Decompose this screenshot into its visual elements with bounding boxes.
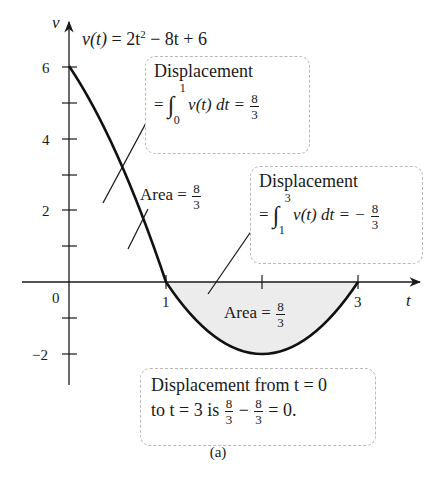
total-displacement-box: Displacement from t = 0 to t = 3 is 83 −… (140, 368, 376, 446)
tick-label-0: 0 (52, 290, 60, 306)
box2-equation: = ∫31 v(t) dt = − 83 (259, 202, 414, 231)
fraction: 83 (371, 202, 380, 231)
fraction: 83 (250, 92, 259, 121)
box3-line1: Displacement from t = 0 (151, 375, 365, 396)
integral-sign: ∫31 (273, 202, 289, 230)
box3-line2: to t = 3 is 83 − 83 = 0. (151, 397, 365, 426)
function-label: v(t) = 2t2 − 8t + 6 (82, 28, 207, 50)
v-axis-label: v (52, 13, 60, 32)
tick-label-6: 6 (42, 60, 50, 76)
tick-label-4: 4 (42, 132, 50, 148)
tick-label-3: 3 (354, 294, 362, 310)
area-label-0-to-1: Area = 83 (140, 182, 202, 211)
t-axis-label: t (406, 291, 412, 310)
displacement-box-1-to-3: Displacement = ∫31 v(t) dt = − 83 (250, 166, 423, 264)
integral-sign: ∫10 (168, 92, 184, 120)
tick-label-minus-2: −2 (32, 347, 48, 363)
displacement-box-0-to-1: Displacement = ∫10 v(t) dt = 83 (145, 56, 310, 154)
box1-equation: = ∫10 v(t) dt = 83 (154, 92, 301, 121)
figure-caption: (a) (0, 444, 436, 461)
tick-label-1: 1 (162, 294, 170, 310)
box1-title: Displacement (154, 61, 301, 82)
area-label-1-to-3: Area = 83 (224, 300, 286, 329)
tick-label-2: 2 (42, 203, 50, 219)
box2-title: Displacement (259, 171, 414, 192)
